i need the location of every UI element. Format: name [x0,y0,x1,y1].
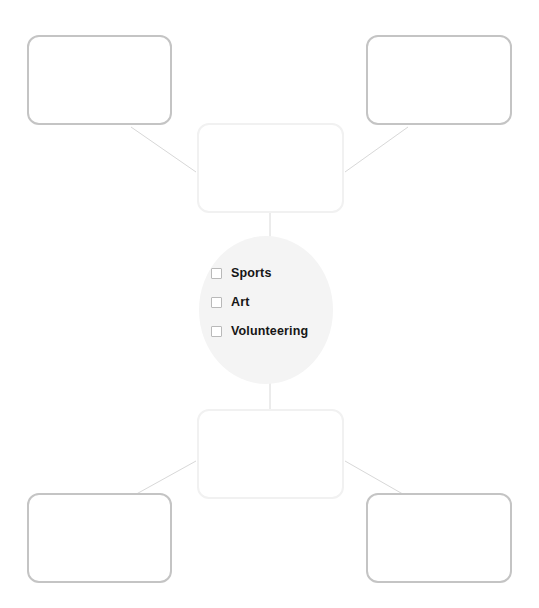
node-box-top-center-text [199,125,342,211]
node-box-top-right-text [368,37,510,123]
checklist-item-sports-label: Sports [231,266,272,280]
node-box-top-right[interactable] [366,35,512,125]
node-box-bottom-right[interactable] [366,493,512,583]
checklist-item-volunteering[interactable]: Volunteering [211,324,351,338]
checklist: Sports Art Volunteering [211,266,351,338]
checklist-item-art[interactable]: Art [211,295,351,309]
connector-top-right-to-top-center [345,127,408,172]
node-box-bottom-right-text [368,495,510,581]
checkbox-icon-art[interactable] [211,297,222,308]
node-box-top-left-text [29,37,170,123]
checkbox-icon-volunteering[interactable] [211,326,222,337]
node-box-bottom-center[interactable] [197,409,344,499]
node-box-bottom-left[interactable] [27,493,172,583]
checklist-item-art-label: Art [231,295,250,309]
checklist-item-volunteering-label: Volunteering [231,324,308,338]
checklist-item-sports[interactable]: Sports [211,266,351,280]
connector-top-left-to-top-center [131,127,196,172]
mind-map-canvas: Sports Art Volunteering [0,0,539,608]
node-box-bottom-center-text [199,411,342,497]
connector-bottom-center-to-bottom-right [345,461,408,497]
node-box-bottom-left-text [29,495,170,581]
node-box-top-center[interactable] [197,123,344,213]
node-box-top-left[interactable] [27,35,172,125]
checkbox-icon-sports[interactable] [211,268,222,279]
connector-bottom-center-to-bottom-left [131,461,196,497]
